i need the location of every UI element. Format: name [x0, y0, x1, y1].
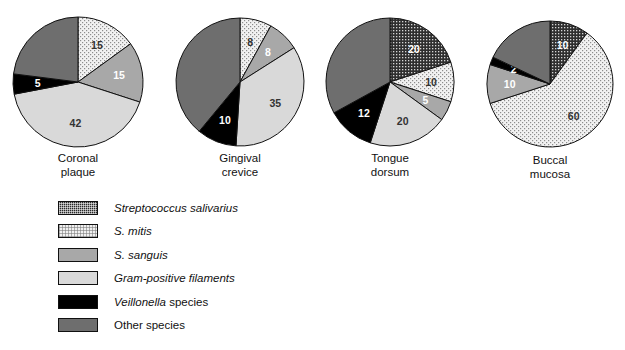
pie-caption-line: Buccal: [480, 154, 620, 168]
legend-item-label: S. sanguis: [114, 249, 168, 261]
pie-chart-row: 1515425Coronalplaque883510Gingivalcrevic…: [0, 0, 625, 190]
pie-caption-line: Gingival: [170, 152, 310, 166]
slice-value-label: 8: [265, 46, 271, 58]
pie-caption-line: plaque: [8, 166, 148, 180]
pie-caption-2: Gingivalcrevice: [170, 152, 310, 179]
legend-swatch-icon: [58, 318, 98, 332]
legend-swatch-icon: [58, 295, 98, 309]
pie-caption-line: Coronal: [8, 152, 148, 166]
pie-slice: [176, 18, 240, 131]
pie-slice: [78, 44, 143, 102]
slice-value-label: 5: [35, 77, 41, 89]
legend-item-4[interactable]: Gram-positive filaments: [58, 267, 358, 291]
pie-slice: [490, 33, 613, 147]
pie-caption-3: Tonguedorsum: [320, 152, 460, 179]
slice-value-label: 5: [422, 94, 428, 106]
slice-value-label: 20: [408, 43, 420, 55]
pie-slice: [334, 82, 390, 143]
slice-value-label: 12: [358, 107, 370, 119]
slice-value-label: 15: [91, 39, 103, 51]
pie-slice: [487, 65, 550, 104]
pie-caption-line: crevice: [170, 166, 310, 180]
pie-slice: [390, 62, 454, 102]
slice-value-label: 35: [269, 97, 281, 109]
pie-svg-1: 1515425: [0, 0, 625, 160]
pie-slice: [390, 82, 451, 120]
pie-slice: [240, 26, 294, 82]
legend-item-3[interactable]: S. sanguis: [58, 243, 358, 267]
pie-caption-line: Tongue: [320, 152, 460, 166]
pie-slice: [78, 17, 131, 82]
pie-caption-4: Buccalmucosa: [480, 154, 620, 181]
slice-value-label: 8: [247, 36, 253, 48]
pie-svg-4: 1060102: [0, 0, 625, 160]
slice-value-label: 20: [397, 115, 409, 127]
legend-swatch-icon: [58, 248, 98, 262]
chart-legend: Streptococcus salivariusS. mitisS. sangu…: [58, 196, 358, 337]
pie-caption-1: Coronalplaque: [8, 152, 148, 179]
slice-value-label: 2: [511, 63, 517, 75]
pie-slice: [14, 17, 78, 82]
pie-slice: [240, 18, 271, 82]
legend-item-label: Gram-positive filaments: [114, 272, 235, 284]
slice-value-label: 10: [504, 78, 516, 90]
legend-item-2[interactable]: S. mitis: [58, 220, 358, 244]
slice-value-label: 15: [113, 69, 125, 81]
pie-svg-2: 883510: [0, 0, 625, 160]
legend-item-label: Other species: [114, 319, 185, 331]
legend-item-label: Streptococcus salivarius: [114, 202, 238, 214]
pie-caption-line: mucosa: [480, 168, 620, 182]
pie-slice: [550, 21, 587, 84]
slice-value-label: 42: [70, 117, 82, 129]
legend-item-5[interactable]: Veillonella species: [58, 290, 358, 314]
pie-slice: [326, 18, 390, 113]
slice-value-label: 10: [219, 114, 231, 126]
pie-slice: [490, 57, 550, 84]
pie-caption-line: dorsum: [320, 166, 460, 180]
pie-chart-figure: 1515425Coronalplaque883510Gingivalcrevic…: [0, 0, 625, 350]
legend-item-label: Veillonella species: [114, 296, 208, 308]
legend-swatch-icon: [58, 271, 98, 285]
pie-svg-3: 201052012: [0, 0, 625, 160]
pie-slice: [13, 74, 78, 94]
legend-item-1[interactable]: Streptococcus salivarius: [58, 196, 358, 220]
legend-item-label: S. mitis: [114, 225, 152, 237]
pie-slice: [14, 82, 140, 147]
slice-value-label: 60: [568, 110, 580, 122]
pie-slice: [493, 21, 550, 84]
legend-swatch-icon: [58, 201, 98, 215]
pie-slice: [390, 18, 451, 82]
pie-slice: [199, 82, 240, 146]
pie-slice: [236, 48, 304, 146]
slice-value-label: 10: [557, 39, 569, 51]
slice-value-label: 10: [425, 76, 437, 88]
legend-swatch-icon: [58, 224, 98, 238]
legend-item-6[interactable]: Other species: [58, 314, 358, 338]
pie-slice: [370, 82, 442, 146]
